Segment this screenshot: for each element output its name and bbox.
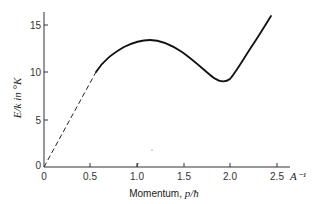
x-tick-0: 0 <box>41 171 47 182</box>
x-ticks <box>90 163 277 167</box>
y-tick-10: 10 <box>30 67 42 78</box>
dashed-phonon-line <box>44 72 96 167</box>
dispersion-curve <box>96 16 271 81</box>
x-tick-0.5: 0.5 <box>83 171 97 182</box>
x-tick-2.0: 2.0 <box>223 171 237 182</box>
y-tick-5: 5 <box>35 115 41 126</box>
chart: 15 10 5 0 0 0.5 1.0 1.5 2.0 2.5 A⁻¹ Mome… <box>0 0 328 204</box>
y-ticks <box>44 25 48 120</box>
y-axis-title: E/k in °K <box>11 77 23 119</box>
stray-dot <box>151 149 152 150</box>
y-tick-15: 15 <box>30 20 42 31</box>
x-tick-2.5: 2.5 <box>270 171 284 182</box>
x-tick-1.5: 1.5 <box>177 171 191 182</box>
x-unit-label: A⁻¹ <box>289 170 306 182</box>
x-axis-title: Momentum, p/ħ <box>129 187 199 199</box>
y-tick-labels: 15 10 5 0 <box>30 20 42 171</box>
x-tick-labels: 0 0.5 1.0 1.5 2.0 2.5 A⁻¹ <box>41 170 306 182</box>
x-tick-1.0: 1.0 <box>130 171 144 182</box>
y-tick-0: 0 <box>35 160 41 171</box>
